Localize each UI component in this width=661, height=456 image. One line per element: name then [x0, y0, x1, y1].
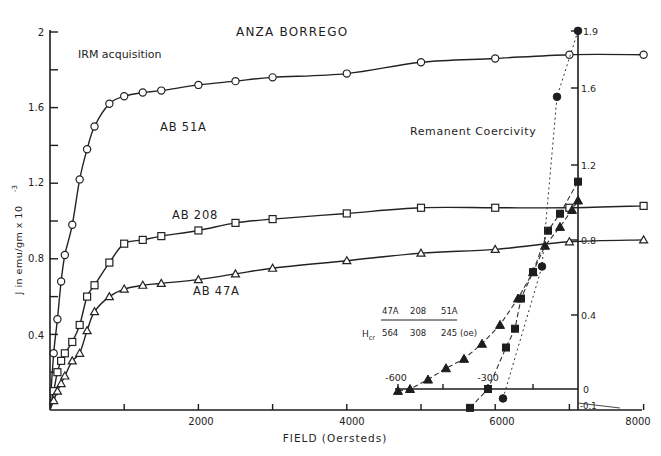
y-tick-label: 1.2	[28, 177, 44, 188]
data-point	[499, 395, 507, 403]
inset-y-tick-label: -0.1	[580, 401, 597, 411]
series-label-47a: AB 47A	[193, 284, 240, 298]
data-point	[417, 59, 424, 66]
data-point	[58, 357, 65, 364]
data-point	[91, 123, 98, 130]
x-axis-ticks	[124, 404, 643, 410]
data-point	[574, 196, 583, 204]
legend-value-208: 308	[410, 328, 426, 338]
data-point	[83, 327, 91, 334]
legend-value-51a: 245 (oe)	[441, 328, 477, 338]
data-point	[195, 227, 202, 234]
y-axis-title-exponent: -3	[11, 185, 19, 192]
data-point	[50, 350, 57, 357]
chart-subtitle: IRM acquisition	[78, 48, 162, 61]
x-tick-label: 4000	[339, 416, 364, 427]
irm-chart: 2 1.6 1.2 0.8 0.4 2000 4000 6000 8000 FI…	[0, 0, 661, 456]
inset-y-tick-label: 0.8	[581, 235, 596, 246]
data-point	[640, 202, 647, 209]
y-axis-title-group: J in emu/gm x 10 -3	[11, 185, 24, 295]
y-tick-label: 0.8	[28, 253, 44, 264]
data-point	[343, 210, 350, 217]
data-point	[575, 178, 582, 185]
data-point	[492, 55, 499, 62]
data-point	[232, 219, 239, 226]
series-label-51a: AB 51A	[160, 120, 207, 134]
data-point	[566, 51, 573, 58]
data-point	[91, 282, 98, 289]
data-point	[61, 251, 68, 258]
data-point	[492, 204, 499, 211]
data-point	[418, 204, 425, 211]
inset-title: Remanent Coercivity	[410, 125, 536, 138]
y-tick-label: 1.6	[28, 102, 44, 113]
y-tick-labels: 2 1.6 1.2 0.8 0.4	[28, 27, 44, 341]
data-point	[69, 221, 76, 228]
data-point	[496, 320, 505, 328]
data-point	[121, 240, 128, 247]
data-point	[84, 146, 91, 153]
data-point	[478, 339, 487, 347]
data-point	[84, 293, 91, 300]
x-axis-title: FIELD (Oersteds)	[283, 432, 387, 444]
inset-x-tick-label: -600	[385, 372, 407, 383]
remanent-coercivity-series	[394, 27, 583, 411]
data-point	[61, 350, 68, 357]
inset-y-tick-label: 0.4	[581, 310, 596, 321]
inset-y-tick-label: 0	[583, 384, 589, 395]
data-point	[121, 93, 128, 100]
x-tick-labels: 2000 4000 6000 8000	[188, 416, 650, 427]
data-point	[503, 344, 510, 351]
legend-header-47a: 47A	[382, 306, 399, 316]
inset-y-tick-label: 1.6	[581, 83, 596, 94]
data-point	[512, 325, 519, 332]
data-point	[57, 380, 65, 387]
curve-ab-51a	[50, 54, 644, 406]
series-label-208: AB 208	[172, 208, 218, 222]
data-point	[158, 87, 165, 94]
data-point	[195, 81, 202, 88]
coercivity-curve-51a	[503, 31, 578, 399]
data-point	[424, 375, 433, 383]
data-point	[158, 233, 165, 240]
data-point	[58, 278, 65, 285]
legend-value-47a: 564	[382, 328, 398, 338]
data-point	[460, 354, 469, 362]
data-point	[556, 222, 565, 230]
data-point	[54, 316, 61, 323]
data-point	[76, 349, 84, 356]
data-point	[530, 269, 537, 276]
main-axes	[50, 30, 644, 410]
data-point	[269, 74, 276, 81]
data-point	[557, 210, 564, 217]
data-point	[54, 369, 61, 376]
data-point	[139, 89, 146, 96]
data-point	[640, 51, 647, 58]
data-point	[106, 259, 113, 266]
data-point	[69, 338, 76, 345]
data-point	[76, 176, 83, 183]
data-point	[76, 321, 83, 328]
data-point	[574, 27, 582, 35]
x-tick-label: 2000	[188, 416, 213, 427]
inset-x-tick-label: -300	[477, 372, 499, 383]
data-point	[518, 295, 525, 302]
data-point	[105, 293, 113, 300]
data-point	[485, 386, 492, 393]
data-point	[343, 70, 350, 77]
data-point	[467, 404, 474, 411]
legend-header-51a: 51A	[441, 306, 458, 316]
data-point	[553, 93, 561, 101]
y-tick-label: 0.4	[28, 330, 44, 341]
y-tick-label: 2	[38, 27, 44, 38]
data-point	[139, 236, 146, 243]
x-tick-label: 8000	[625, 416, 650, 427]
data-point	[61, 372, 69, 379]
data-point	[232, 78, 239, 85]
inset-y-tick-label: 1.9	[583, 26, 598, 37]
legend-header-208: 208	[410, 306, 426, 316]
hcr-legend: 47A 208 51A Hcr 564 308 245 (oe)	[362, 306, 477, 342]
data-point	[269, 216, 276, 223]
curve-ab-47a	[50, 240, 644, 410]
y-axis-title: J in emu/gm x 10	[13, 206, 24, 296]
